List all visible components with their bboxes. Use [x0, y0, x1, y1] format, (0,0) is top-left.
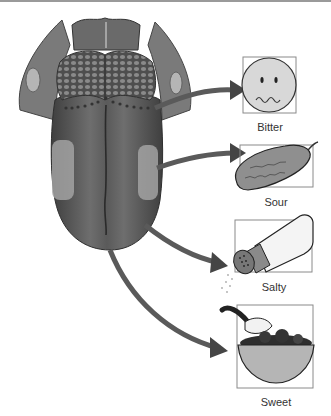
arrow-salty	[145, 225, 228, 273]
arrow-sour	[157, 143, 246, 168]
sugar-bowl-icon	[222, 308, 314, 383]
sour-label: Sour	[236, 196, 316, 208]
left-tonsil	[26, 68, 40, 92]
right-tonsil	[170, 72, 182, 94]
left-taste-patch	[52, 140, 74, 200]
salty-label: Salty	[234, 281, 314, 293]
taste-diagram	[0, 0, 331, 416]
bitter-panel	[242, 57, 296, 113]
sweet-panel	[222, 305, 314, 388]
sweet-label: Sweet	[236, 396, 316, 408]
sour-panel	[236, 142, 318, 190]
tongue-posterior-papillae	[57, 51, 156, 100]
pickle-icon	[236, 142, 318, 190]
right-taste-patch	[138, 145, 158, 200]
bitter-label: Bitter	[230, 121, 310, 133]
frowning-face-icon	[242, 58, 296, 112]
arrow-sweet	[110, 250, 228, 358]
